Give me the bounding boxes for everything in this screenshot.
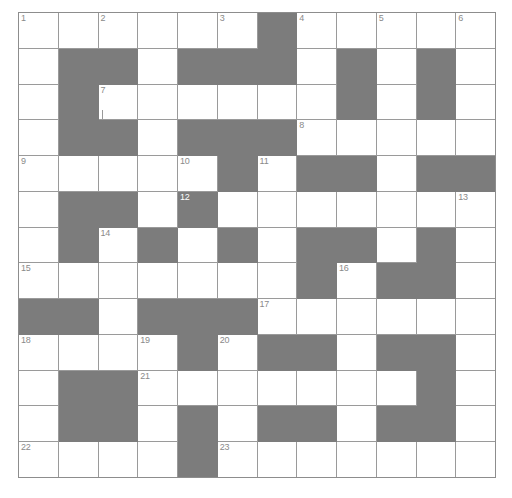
letter-cell[interactable] bbox=[138, 192, 178, 228]
letter-cell[interactable]: 4 bbox=[297, 13, 337, 49]
letter-cell[interactable] bbox=[138, 442, 178, 478]
letter-cell[interactable] bbox=[417, 442, 457, 478]
letter-cell[interactable] bbox=[417, 299, 457, 335]
letter-cell[interactable] bbox=[178, 263, 218, 299]
letter-cell[interactable] bbox=[377, 156, 417, 192]
letter-cell[interactable] bbox=[178, 371, 218, 407]
letter-cell[interactable] bbox=[456, 120, 496, 156]
letter-cell[interactable] bbox=[99, 263, 139, 299]
letter-cell[interactable] bbox=[337, 13, 377, 49]
letter-cell[interactable]: 1 bbox=[19, 13, 59, 49]
letter-cell[interactable] bbox=[258, 371, 298, 407]
letter-cell[interactable] bbox=[297, 192, 337, 228]
letter-cell[interactable] bbox=[178, 13, 218, 49]
letter-cell[interactable] bbox=[456, 263, 496, 299]
letter-cell[interactable] bbox=[19, 120, 59, 156]
letter-cell[interactable] bbox=[456, 85, 496, 121]
letter-cell[interactable] bbox=[258, 263, 298, 299]
letter-cell[interactable] bbox=[337, 192, 377, 228]
letter-cell[interactable] bbox=[377, 299, 417, 335]
letter-cell[interactable] bbox=[138, 156, 178, 192]
letter-cell[interactable] bbox=[19, 406, 59, 442]
letter-cell[interactable]: 18 bbox=[19, 335, 59, 371]
letter-cell[interactable] bbox=[377, 85, 417, 121]
letter-cell[interactable] bbox=[19, 49, 59, 85]
letter-cell[interactable] bbox=[456, 228, 496, 264]
letter-cell[interactable] bbox=[138, 49, 178, 85]
letter-cell[interactable]: 22 bbox=[19, 442, 59, 478]
letter-cell[interactable] bbox=[138, 120, 178, 156]
letter-cell[interactable]: 17 bbox=[258, 299, 298, 335]
letter-cell[interactable] bbox=[377, 120, 417, 156]
letter-cell[interactable] bbox=[456, 49, 496, 85]
letter-cell[interactable] bbox=[59, 13, 99, 49]
letter-cell[interactable] bbox=[456, 371, 496, 407]
letter-cell[interactable] bbox=[258, 442, 298, 478]
letter-cell[interactable] bbox=[456, 406, 496, 442]
letter-cell[interactable]: 3 bbox=[218, 13, 258, 49]
letter-cell[interactable] bbox=[337, 442, 377, 478]
letter-cell[interactable] bbox=[456, 335, 496, 371]
letter-cell[interactable] bbox=[19, 192, 59, 228]
letter-cell[interactable] bbox=[99, 299, 139, 335]
letter-cell[interactable] bbox=[456, 442, 496, 478]
letter-cell[interactable] bbox=[337, 120, 377, 156]
letter-cell[interactable]: 21 bbox=[138, 371, 178, 407]
letter-cell[interactable] bbox=[258, 228, 298, 264]
letter-cell[interactable] bbox=[138, 85, 178, 121]
letter-cell[interactable]: 9 bbox=[19, 156, 59, 192]
letter-cell[interactable] bbox=[178, 85, 218, 121]
letter-cell[interactable] bbox=[138, 13, 178, 49]
letter-cell[interactable] bbox=[19, 228, 59, 264]
crossword-grid[interactable]: 1234567891011121314151617181920212223 bbox=[18, 12, 496, 478]
letter-cell[interactable] bbox=[138, 406, 178, 442]
letter-cell[interactable] bbox=[19, 85, 59, 121]
letter-cell[interactable] bbox=[59, 442, 99, 478]
letter-cell[interactable]: 16 bbox=[337, 263, 377, 299]
letter-cell[interactable]: 13 bbox=[456, 192, 496, 228]
letter-cell[interactable] bbox=[417, 192, 457, 228]
letter-cell[interactable]: 10 bbox=[178, 156, 218, 192]
letter-cell[interactable] bbox=[377, 371, 417, 407]
letter-cell[interactable]: 20 bbox=[218, 335, 258, 371]
letter-cell[interactable] bbox=[218, 192, 258, 228]
letter-cell[interactable] bbox=[417, 120, 457, 156]
letter-cell[interactable] bbox=[99, 335, 139, 371]
letter-cell[interactable]: 19 bbox=[138, 335, 178, 371]
letter-cell[interactable] bbox=[99, 156, 139, 192]
letter-cell[interactable] bbox=[258, 85, 298, 121]
letter-cell[interactable] bbox=[178, 228, 218, 264]
letter-cell[interactable] bbox=[297, 299, 337, 335]
letter-cell[interactable]: 8 bbox=[297, 120, 337, 156]
letter-cell[interactable]: 23 bbox=[218, 442, 258, 478]
letter-cell[interactable] bbox=[258, 192, 298, 228]
letter-cell[interactable]: 2 bbox=[99, 13, 139, 49]
letter-cell[interactable]: 14 bbox=[99, 228, 139, 264]
letter-cell[interactable] bbox=[377, 192, 417, 228]
letter-cell[interactable] bbox=[377, 49, 417, 85]
letter-cell[interactable] bbox=[337, 371, 377, 407]
letter-cell[interactable] bbox=[377, 442, 417, 478]
letter-cell[interactable] bbox=[337, 406, 377, 442]
letter-cell[interactable] bbox=[218, 406, 258, 442]
letter-cell[interactable] bbox=[337, 299, 377, 335]
letter-cell[interactable] bbox=[59, 156, 99, 192]
letter-cell[interactable] bbox=[337, 335, 377, 371]
letter-cell[interactable] bbox=[218, 371, 258, 407]
letter-cell[interactable]: 15 bbox=[19, 263, 59, 299]
letter-cell[interactable] bbox=[297, 442, 337, 478]
letter-cell[interactable] bbox=[377, 228, 417, 264]
letter-cell[interactable] bbox=[59, 335, 99, 371]
letter-cell[interactable]: 6 bbox=[456, 13, 496, 49]
letter-cell[interactable] bbox=[218, 85, 258, 121]
letter-cell[interactable] bbox=[456, 299, 496, 335]
letter-cell[interactable] bbox=[417, 13, 457, 49]
letter-cell[interactable] bbox=[99, 442, 139, 478]
letter-cell[interactable]: 11 bbox=[258, 156, 298, 192]
letter-cell[interactable]: 5 bbox=[377, 13, 417, 49]
letter-cell[interactable] bbox=[19, 371, 59, 407]
letter-cell[interactable]: 7 bbox=[99, 85, 139, 121]
letter-cell[interactable] bbox=[59, 263, 99, 299]
letter-cell[interactable] bbox=[138, 263, 178, 299]
letter-cell[interactable] bbox=[297, 49, 337, 85]
